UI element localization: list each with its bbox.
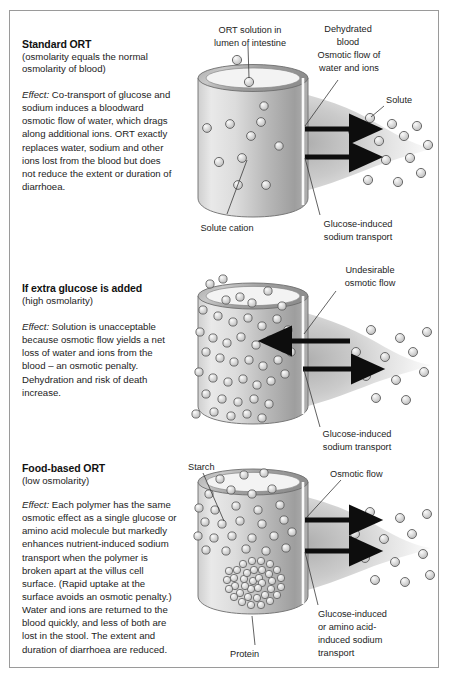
label-osmotic-flow: Osmotic flow [330,468,383,481]
panel-1-effect-text: Co-transport of glucose and sodium induc… [22,89,171,192]
ort-osmolarity-figure: Standard ORT (osmolarity equals the norm… [0,0,452,681]
panel-3-title: Food-based ORT [22,462,180,475]
label-glucose-induced-sodium-transport-1: Glucose-induced sodium transport [310,218,406,244]
label-glucose-induced-sodium-transport-2: Glucose-induced sodium transport [308,428,406,454]
panel-1-effect-label: Effect: [22,89,49,100]
panel-1-subtitle: (osmolarity equals the normal osmolarity… [22,51,172,76]
panel-2-effect-text: Solution is unacceptable because osmotic… [22,321,165,398]
panel-3-effect-text: Each polymer has the same osmotic effect… [22,499,176,655]
label-protein: Protein [230,648,259,661]
panel-2-body: Effect: Solution is unacceptable because… [22,320,174,399]
label-ort-solution-lumen: ORT solution in lumen of intestine [202,24,298,50]
panel-2-title: If extra glucose is added [22,282,180,295]
label-solute-cation: Solute cation [186,222,268,235]
intestinal-lumen-cylinder-1 [198,65,308,218]
label-dehydrated-blood: Dehydrated blood [312,23,384,49]
label-undesirable-osmotic-flow: Undesirable osmotic flow [330,264,410,290]
panel-1-title: Standard ORT [22,38,172,51]
panel-2-effect-label: Effect: [22,321,49,332]
panel-3-body: Effect: Each polymer has the same osmoti… [22,498,178,656]
label-solute: Solute [386,94,412,107]
label-glucose-amino-acid-induced-sodium-transport: Glucose-induced or amino acid- induced s… [318,608,428,660]
panel-3-subtitle: (low osmolarity) [22,475,172,487]
panel-3-effect-label: Effect: [22,499,49,510]
panel-2-subtitle: (high osmolarity) [22,295,172,307]
panel-1-body: Effect: Co-transport of glucose and sodi… [22,88,174,193]
label-starch: Starch [188,461,215,474]
label-osmotic-flow-water-ions: Osmotic flow of water and ions [304,49,394,75]
panel-2-graphics [192,275,432,427]
